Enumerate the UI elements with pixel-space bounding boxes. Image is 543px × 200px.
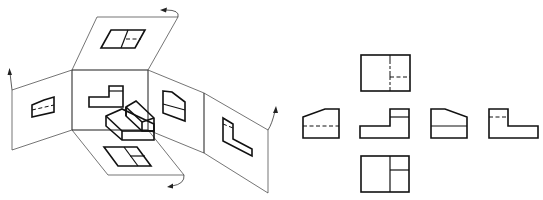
panel-front [72, 70, 148, 130]
panel-top [72, 8, 178, 71]
view-right-side [303, 109, 339, 138]
view-front [360, 109, 409, 138]
six-views-figure: Six basic views projection (unfolding of… [0, 0, 543, 200]
rotation-arrow-icon [10, 73, 12, 90]
panel-left [8, 68, 73, 150]
projection-drawing [0, 0, 543, 200]
rotation-arrow-icon [166, 10, 178, 17]
view-rear [489, 109, 538, 138]
rotation-arrow-icon [268, 111, 275, 130]
view-left-side [431, 109, 467, 138]
six-views-arrangement [303, 55, 538, 192]
panel-bottom [72, 130, 184, 189]
view-bottom [361, 156, 409, 192]
projection-box-unfolding [8, 8, 279, 194]
view-top [361, 55, 410, 91]
rotation-arrow-icon [172, 175, 184, 186]
panel-rear [204, 93, 278, 193]
